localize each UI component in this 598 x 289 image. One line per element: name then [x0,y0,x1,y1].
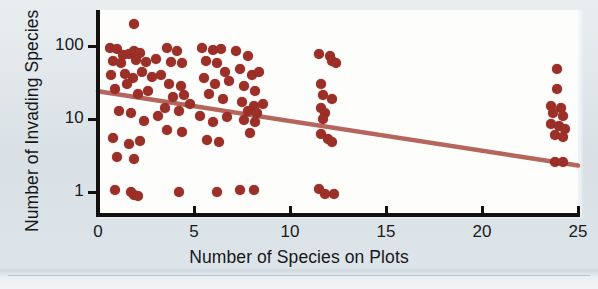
y-axis-title: Number of Invading Species [22,10,43,232]
x-tick-label: 5 [174,222,214,242]
x-tick-label: 10 [270,222,310,242]
page-bottom-band [0,269,598,289]
x-tick-label: 0 [78,222,118,242]
x-tick-mark [193,206,196,215]
x-tick-mark [97,206,100,215]
figure-container: 110100 0510152025 Number of Species on P… [0,0,598,289]
x-tick-mark [289,206,292,215]
x-tick-mark [577,206,580,215]
page-divider-rule [8,275,590,276]
x-tick-label: 25 [558,222,598,242]
x-tick-label: 15 [366,222,406,242]
x-axis-ticks: 0510152025 [0,0,598,289]
x-tick-label: 20 [462,222,502,242]
x-tick-mark [481,206,484,215]
x-axis-title: Number of Species on Plots [0,247,598,268]
x-tick-mark [385,206,388,215]
